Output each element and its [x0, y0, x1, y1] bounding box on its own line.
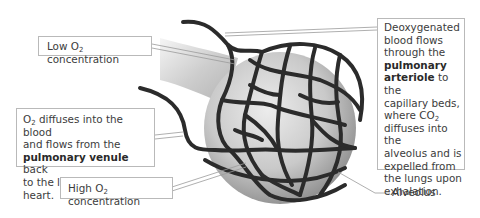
low-o2-suffix: concentration [47, 53, 119, 65]
venule-bold-term: pulmonary venule [23, 151, 129, 163]
high-o2-label: High O2 concentration [60, 177, 173, 199]
arteriole-line8: diffuses into the [384, 122, 464, 147]
alveolus-diagram: Low O2 concentration O2 diffuses into th… [0, 0, 480, 218]
venule-line3: back [23, 163, 48, 175]
arteriole-co2-prefix: where CO [384, 109, 435, 121]
pulmonary-arteriole-label: Deoxygenated blood flows through the pul… [377, 18, 465, 170]
arteriole-line9: alveolus and is [384, 147, 464, 160]
arteriole-line2: blood flows [384, 34, 464, 47]
venule-line2: and flows from the [23, 138, 154, 151]
venule-line1: diffuses into the blood [23, 113, 123, 138]
low-o2-prefix: Low O [47, 40, 79, 52]
pulmonary-venule-label: O2 diffuses into the blood and flows fro… [16, 108, 155, 167]
low-o2-label: Low O2 concentration [38, 36, 152, 56]
alveolus-label: Alveolus [392, 186, 436, 198]
arteriole-bold-term-1: pulmonary [384, 59, 447, 71]
arteriole-line10: expelled from [384, 160, 464, 173]
arteriole-line6: capillary beds, [384, 97, 464, 110]
arteriole-bold-term-2: arteriole [384, 71, 435, 83]
arteriole-line1: Deoxygenated [384, 21, 464, 34]
arteriole-line3: through the [384, 46, 464, 59]
arteriole-line11: the lungs upon [384, 172, 464, 185]
venule-o2-prefix: O [23, 113, 31, 125]
high-o2-suffix: concentration [68, 195, 140, 207]
high-o2-prefix: High O [68, 182, 103, 194]
